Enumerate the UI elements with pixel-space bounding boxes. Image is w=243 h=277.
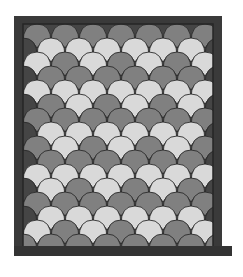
- clamshell-scale: [233, 122, 243, 146]
- clamshell-scale: [219, 136, 243, 160]
- clamshell-scale: [233, 234, 243, 258]
- clamshell-scale: [233, 94, 243, 118]
- clamshell-scale: [219, 52, 243, 76]
- clamshell-scale: [219, 24, 243, 48]
- clamshell-scale: [233, 150, 243, 174]
- clamshell-scale: [233, 66, 243, 90]
- clamshell-scale: [219, 80, 243, 104]
- clamshell-scale: [219, 192, 243, 216]
- clamshell-scale: [219, 164, 243, 188]
- clamshell-scale: [233, 178, 243, 202]
- clamshell-scale: [233, 38, 243, 62]
- clamshell-scale: [219, 108, 243, 132]
- clamshell-scales: [9, 24, 243, 272]
- clamshell-scale: [233, 206, 243, 230]
- clamshell-scale: [219, 220, 243, 244]
- quilt-base-bar: [14, 246, 232, 256]
- quilt-image: [0, 0, 243, 277]
